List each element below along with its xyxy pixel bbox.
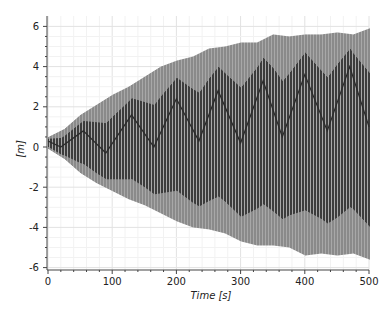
y-axis-title: [m] <box>15 140 26 158</box>
chart: 0100200300400500 -6-4-20246 Time [s] [m] <box>0 0 392 313</box>
y-axis-ticks: -6-4-20246 <box>29 21 47 273</box>
x-tick-label: 300 <box>231 276 250 287</box>
y-tick-label: 4 <box>33 61 39 72</box>
x-axis-title: Time [s] <box>191 290 232 301</box>
y-tick-label: 6 <box>33 21 39 32</box>
x-axis-ticks: 0100200300400500 <box>45 270 379 287</box>
x-tick-label: 200 <box>167 276 186 287</box>
x-tick-label: 400 <box>295 276 314 287</box>
x-tick-label: 500 <box>359 276 378 287</box>
plot-area <box>48 28 370 259</box>
y-tick-label: -2 <box>29 182 39 193</box>
y-tick-label: -4 <box>29 222 39 233</box>
x-tick-label: 100 <box>103 276 122 287</box>
y-tick-label: 2 <box>33 101 39 112</box>
x-tick-label: 0 <box>45 276 51 287</box>
y-tick-label: 0 <box>33 142 39 153</box>
y-tick-label: -6 <box>29 262 39 273</box>
